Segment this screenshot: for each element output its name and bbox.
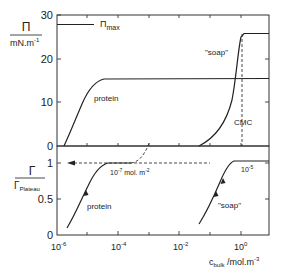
left-arrow-icon xyxy=(67,161,75,166)
xtick-1e0: 100 xyxy=(234,241,248,252)
xtick-1e-6: 10-6 xyxy=(51,241,67,252)
lower-ylabel-numerator: Γ xyxy=(29,164,36,178)
upper-ytick-30: 30 xyxy=(41,9,53,21)
upper-ylabel-denominator: mN.m-1 xyxy=(10,37,40,48)
protein-lower-label: protein xyxy=(87,202,111,211)
x-axis-label: cbulk /mol.m-3 xyxy=(209,256,260,268)
upper-ylabel-numerator: Π xyxy=(22,20,31,34)
lower-ylabel-denominator: ΓPlateau xyxy=(14,180,40,192)
pi-max-label: Πmax xyxy=(100,19,120,31)
upper-x-ticks xyxy=(87,15,241,146)
lower-ytick-1: 1 xyxy=(47,157,53,169)
surface-pressure-adsorption-chart: 30 20 10 0 Π mN.m-1 Πmax protein "soap" … xyxy=(0,0,282,274)
upper-ytick-0: 0 xyxy=(47,140,53,152)
upper-ytick-20: 20 xyxy=(41,53,53,65)
xtick-1e-2: 10-2 xyxy=(173,241,189,252)
soap-lower-label: "soap" xyxy=(218,201,241,210)
lower-ytick-0: 0 xyxy=(47,229,53,241)
upper-ytick-10: 10 xyxy=(41,96,53,108)
soap-upper-label: "soap" xyxy=(205,48,228,57)
lower-panel-frame xyxy=(57,146,269,235)
xtick-1e-4: 10-4 xyxy=(111,241,127,252)
protein-upper-label: protein xyxy=(94,94,118,103)
lower-ytick-0-5: 0.5 xyxy=(38,193,53,205)
soap-adsorption-curve xyxy=(199,161,269,224)
soap-plateau-label: 10-5 xyxy=(241,164,253,173)
protein-pressure-curve xyxy=(64,79,269,147)
lower-ticks xyxy=(57,163,269,235)
protein-plateau-label: 10-7 mol. m-2 xyxy=(110,167,150,176)
cmc-label: CMC xyxy=(234,118,252,127)
